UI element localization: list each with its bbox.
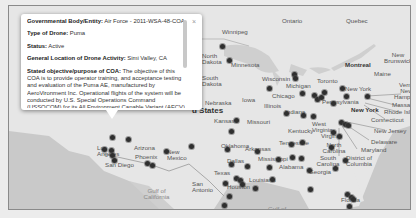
field-label: General Location of Drone Activity: [27,55,126,61]
info-window-tail [106,110,118,119]
map-marker[interactable] [319,95,324,100]
map-marker[interactable] [267,86,272,91]
map-marker[interactable] [112,158,117,163]
label-maryland: Maryland [361,147,386,153]
map-marker[interactable] [253,186,258,191]
field-value: Simi Valley, CA [126,55,167,61]
info-window: Governmental Body/Entity: Air Force - 20… [21,14,202,110]
map-marker[interactable] [220,44,225,49]
label-south-carolina: South Carolina [315,155,341,167]
map-marker[interactable] [351,197,356,202]
label-rhode-island: Rhode Island [384,109,411,115]
map-marker[interactable] [331,130,336,135]
map-canvas[interactable]: Winnipeg Ontario Quebec North Dakota Sou… [9,6,410,209]
label-gulf-of-mexico: Gulf of Mexico [262,206,292,210]
label-georgia: Georgia [309,169,331,175]
map-marker[interactable] [225,147,230,152]
label-winnipeg: Winnipeg [222,29,248,35]
map-marker[interactable] [300,140,305,145]
map-marker[interactable] [229,129,234,134]
map-marker[interactable] [270,177,275,182]
field-label: Stated objective/purpose of COA: [27,68,121,74]
map-marker[interactable] [276,157,281,162]
label-phoenix: Phoenix [135,154,157,160]
map-marker[interactable] [222,203,227,208]
field-status: Status: Active [27,43,185,50]
label-alabama: Alabama [279,164,303,170]
label-dc: District of Columbia [344,155,374,167]
label-iowa: Iowa [242,97,255,103]
field-stated-objective: Stated objective/purpose of COA: The obj… [27,68,185,109]
label-san-antonio: San Antonio [192,181,220,193]
map-marker[interactable] [229,162,234,167]
label-toronto: Toronto [317,78,338,84]
map-marker[interactable] [164,149,169,154]
map-marker[interactable] [365,94,370,99]
map-marker[interactable] [245,164,250,169]
map-marker[interactable] [343,158,348,163]
label-minnesota: Minnesota [231,62,260,68]
label-pennsylvania: Pennsylvania [322,99,359,105]
label-monterrey: Monterrey [192,209,220,210]
label-new-mexico: New Mexico [167,149,191,161]
label-ontario: Ontario [282,18,302,24]
field-type-of-drone: Type of Drone: Puma [27,30,185,37]
map-marker[interactable] [333,166,338,171]
map-marker[interactable] [299,156,304,161]
map-marker[interactable] [344,94,349,99]
info-window-scrollbar[interactable] [183,20,187,68]
map-marker[interactable] [311,114,316,119]
field-general-location: General Location of Drone Activity: Simi… [27,55,185,62]
map-marker[interactable] [346,123,351,128]
map-marker[interactable] [240,182,245,187]
map-marker[interactable] [322,90,327,95]
map-marker[interactable] [308,187,313,192]
map-marker[interactable] [126,137,131,142]
field-label: Type of Drone: [27,30,68,36]
map-marker[interactable] [110,135,115,140]
label-mississippi: Mississippi [258,156,288,162]
map-marker[interactable] [234,118,239,123]
map-marker[interactable] [300,91,305,96]
map-marker[interactable] [255,149,260,154]
map-marker[interactable] [223,181,228,186]
label-new-york-city: New York [351,107,379,113]
label-kansas: Kansas [214,118,235,124]
label-quebec: Quebec [346,18,368,24]
map-marker[interactable] [150,163,155,168]
label-san-diego: San Diego [105,162,134,168]
label-connecticut: Connecticut [371,117,404,123]
close-icon[interactable]: × [192,18,196,25]
label-new-hampshire: New Hampshire [394,88,411,100]
map-marker[interactable] [340,86,345,91]
label-illinois: Illinois [264,103,281,109]
map-frame: Winnipeg Ontario Quebec North Dakota Sou… [8,5,411,210]
map-marker[interactable] [284,111,289,116]
label-gulf-of-california: Gulf of California [139,188,174,200]
label-chicago: Chicago [272,93,295,99]
map-marker[interactable] [329,145,334,150]
label-michigan: Michigan [286,83,311,89]
map-marker[interactable] [301,113,306,118]
map-marker[interactable] [189,144,194,149]
info-window-content: Governmental Body/Entity: Air Force - 20… [27,18,185,108]
map-marker[interactable] [227,194,232,199]
map-marker[interactable] [307,168,312,173]
label-montreal: Montreal [345,62,371,68]
map-marker[interactable] [337,134,342,139]
field-value: Puma [68,30,85,36]
label-missouri: Missouri [247,119,270,125]
map-marker[interactable] [290,155,295,160]
map-marker[interactable] [227,58,232,63]
label-kentucky: Kentucky [288,128,313,134]
label-new-jersey: New Jersey [374,128,406,134]
map-marker[interactable] [347,204,352,209]
map-marker[interactable] [102,147,107,152]
field-governmental-body: Governmental Body/Entity: Air Force - 20… [27,18,185,25]
map-marker[interactable] [267,165,272,170]
map-marker[interactable] [331,101,336,106]
label-new-brunswick: New Brunswick [384,52,411,64]
map-marker[interactable] [293,76,298,81]
map-marker[interactable] [289,142,294,147]
field-label: Status: [27,43,47,49]
